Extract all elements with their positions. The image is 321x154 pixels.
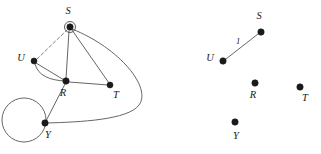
vertex-label-Y-left: Y: [45, 129, 52, 140]
graph-figure-canvas: S U R T Y S U R T Y 1: [0, 0, 321, 154]
edge-weight-label-U-S: 1: [236, 36, 240, 46]
vertex-T-left[interactable]: [107, 82, 113, 88]
vertex-label-U-left: U: [17, 52, 26, 63]
edge-U-S-right: [226, 34, 258, 59]
figure-root: S U R T Y S U R T Y 1: [0, 0, 321, 154]
edge-U-S-dashed: [37, 30, 67, 59]
right-graph-panel: S U R T Y 1: [206, 10, 309, 141]
edge-S-R: [66, 31, 69, 79]
vertex-R-left[interactable]: [63, 78, 69, 84]
vertex-label-R-left: R: [59, 87, 67, 98]
vertex-Y-left[interactable]: [42, 120, 48, 126]
vertex-label-S-right: S: [256, 10, 262, 21]
vertex-S-right[interactable]: [258, 29, 264, 35]
vertex-T-right[interactable]: [297, 84, 303, 90]
edge-U-R-b: [35, 64, 64, 81]
edge-U-R-a: [36, 63, 64, 80]
vertex-R-right[interactable]: [252, 80, 258, 86]
vertex-label-T-right: T: [302, 92, 309, 103]
vertex-label-T-left: T: [113, 89, 120, 100]
vertex-S-left[interactable]: [67, 24, 73, 30]
edge-S-Y-curve: [47, 29, 142, 123]
left-graph-panel: S U R T Y: [2, 5, 142, 142]
vertex-label-S-left: S: [65, 5, 71, 16]
vertex-label-R-right: R: [249, 89, 257, 100]
vertex-label-Y-right: Y: [233, 130, 240, 141]
vertex-U-right[interactable]: [220, 58, 226, 64]
vertex-Y-right[interactable]: [232, 119, 238, 125]
vertex-U-left[interactable]: [31, 58, 37, 64]
edge-R-T: [69, 82, 108, 85]
self-loop-Y: [2, 98, 46, 142]
vertex-label-U-right: U: [206, 52, 215, 63]
